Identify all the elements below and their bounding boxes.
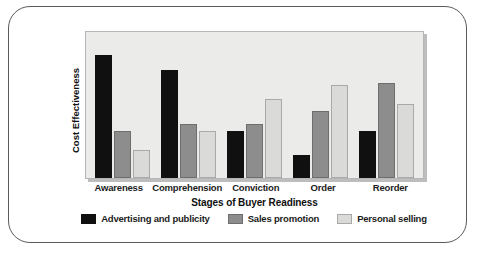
- bar: [161, 70, 178, 178]
- bar: [133, 150, 150, 178]
- y-axis-title: Cost Effectiveness: [70, 41, 81, 181]
- bar: [95, 55, 112, 178]
- legend-swatch-icon: [228, 214, 243, 224]
- bar: [246, 124, 263, 178]
- legend-label: Personal selling: [357, 213, 427, 224]
- bar: [114, 131, 131, 178]
- bar: [378, 83, 395, 178]
- x-axis-tick-label: Reorder: [357, 182, 424, 196]
- legend-swatch-icon: [337, 214, 352, 224]
- bar-group: [353, 32, 419, 178]
- x-axis-tick-labels: AwarenessComprehensionConvictionOrderReo…: [85, 182, 424, 196]
- legend-label: Advertising and publicity: [101, 213, 210, 224]
- chart-frame: Cost Effectiveness AwarenessComprehensio…: [8, 6, 467, 243]
- bar-groups: [86, 32, 423, 178]
- bar-group: [287, 32, 353, 178]
- legend-item: Sales promotion: [228, 213, 319, 224]
- bar-group: [222, 32, 288, 178]
- legend-swatch-icon: [81, 214, 96, 224]
- bar: [312, 111, 329, 178]
- bar: [331, 85, 348, 178]
- y-axis-title-container: Cost Effectiveness: [67, 43, 83, 183]
- plot-area-wrapper: [85, 31, 424, 179]
- x-axis-tick-label: Comprehension: [152, 182, 222, 196]
- x-axis-tick-label: Conviction: [222, 182, 289, 196]
- bar: [180, 124, 197, 178]
- bar: [397, 104, 414, 178]
- bar: [265, 99, 282, 178]
- legend-item: Advertising and publicity: [81, 213, 210, 224]
- bar-group: [156, 32, 222, 178]
- plot-area: [85, 31, 424, 179]
- bar: [227, 131, 244, 178]
- x-axis-tick-label: Order: [289, 182, 356, 196]
- bar: [359, 131, 376, 178]
- x-axis-tick-label: Awareness: [85, 182, 152, 196]
- bar: [293, 155, 310, 178]
- bar: [199, 131, 216, 178]
- x-axis-title: Stages of Buyer Readiness: [85, 197, 424, 208]
- legend-label: Sales promotion: [248, 213, 319, 224]
- bar-group: [90, 32, 156, 178]
- legend-item: Personal selling: [337, 213, 427, 224]
- chart-legend: Advertising and publicitySales promotion…: [69, 213, 439, 224]
